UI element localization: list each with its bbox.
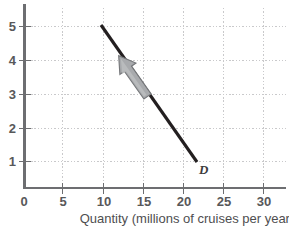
y-tick-label-4: 4 — [9, 53, 16, 68]
y-tick-label-1: 1 — [9, 154, 16, 169]
x-axis-title: Quantity (millions of cruises per year) — [80, 211, 289, 226]
x-tick-label-25: 25 — [217, 194, 231, 209]
y-tick-label-3: 3 — [9, 87, 16, 102]
x-tick-label-20: 20 — [177, 194, 191, 209]
x-tick-label-5: 5 — [59, 194, 66, 209]
horizontal-gridlines — [25, 27, 287, 162]
y-tick-label-5: 5 — [9, 19, 16, 34]
x-tick-label-15: 15 — [137, 194, 151, 209]
demand-curve-chart: · · · · · — [0, 0, 289, 229]
x-tick-label-0: 0 — [20, 194, 27, 209]
x-tick-label-10: 10 — [97, 194, 111, 209]
x-tick-label-30: 30 — [257, 194, 271, 209]
demand-curve-label: D — [199, 162, 208, 178]
y-tick-label-2: 2 — [9, 121, 16, 136]
